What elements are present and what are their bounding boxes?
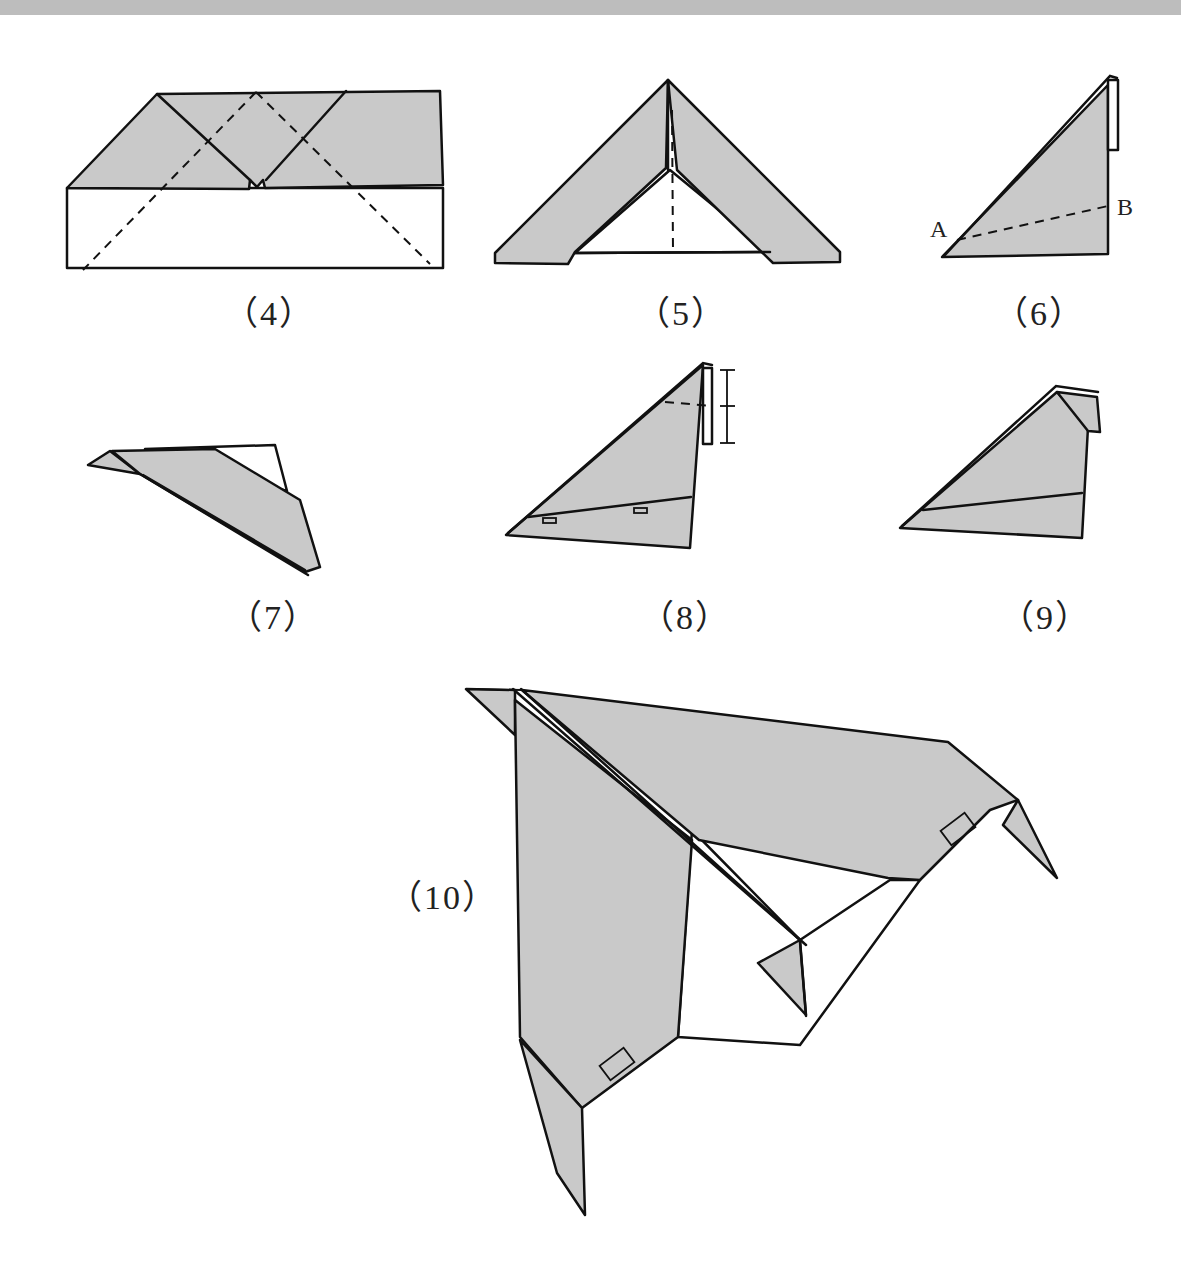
- step-9-diagram: [900, 386, 1100, 538]
- step-7-label: （7）: [228, 590, 319, 639]
- step-6-label: （6）: [994, 286, 1085, 335]
- point-a-label: A: [930, 216, 947, 243]
- step-10-label: （10）: [388, 870, 498, 919]
- point-b-label: B: [1117, 194, 1133, 221]
- step-8-diagram: [506, 363, 735, 548]
- step-10-diagram: [466, 689, 1057, 1215]
- step-8-label: （8）: [640, 590, 731, 639]
- step-9-label: （9）: [1000, 590, 1091, 639]
- step-6-diagram: [942, 76, 1118, 257]
- step-4-label: （4）: [224, 286, 315, 335]
- step-7-diagram: [88, 445, 320, 575]
- step-4-diagram: [67, 91, 443, 270]
- step-5-label: （5）: [636, 286, 727, 335]
- step-5-diagram: [495, 80, 840, 264]
